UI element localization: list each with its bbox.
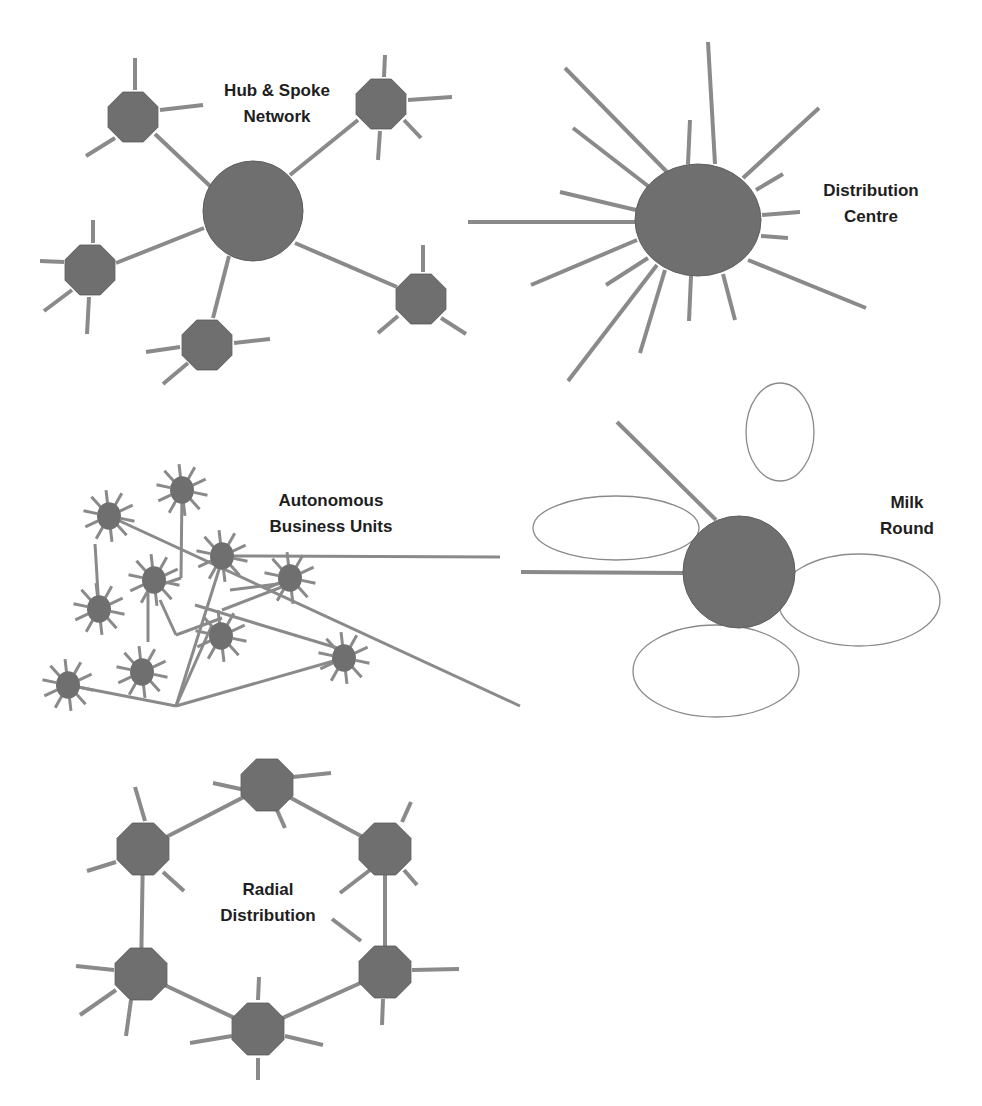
distribution-centre-label: Distribution Centre	[823, 178, 918, 230]
distribution-spoke-line	[762, 212, 800, 215]
logistics-network-diagram	[0, 0, 982, 1106]
unit-ray-line	[233, 545, 246, 551]
satellite-spoke-line	[404, 120, 421, 138]
unit-ray-line	[204, 537, 213, 547]
unit-ray-line	[106, 490, 108, 504]
business-unit-node	[209, 622, 233, 650]
business-unit-link-line	[222, 556, 500, 557]
satellite-depot-node	[65, 245, 115, 295]
satellite-depot-node	[356, 79, 406, 129]
distribution-spoke-line	[689, 276, 691, 321]
satellite-spoke-line	[160, 105, 203, 110]
unit-ray-line	[345, 670, 347, 684]
business-unit-node	[87, 595, 111, 623]
satellite-spoke-line	[378, 316, 398, 333]
unit-ray-line	[84, 511, 98, 514]
satellite-spoke-line	[378, 131, 380, 160]
unit-ray-line	[96, 526, 103, 538]
radial-spoke-line	[258, 977, 259, 1000]
radial-depot-node	[359, 823, 411, 875]
radial-depot-node	[115, 948, 167, 1000]
unit-ray-line	[164, 471, 173, 481]
business-unit-node	[278, 564, 302, 592]
business-unit-node	[332, 644, 356, 672]
radial-depot-node	[359, 946, 411, 998]
distribution-spoke-line	[761, 236, 788, 238]
unit-ray-line	[222, 648, 224, 662]
distribution-centre-diagram	[468, 42, 866, 381]
unit-ray-line	[69, 697, 71, 711]
hub-link-line	[155, 134, 210, 186]
unit-ray-line	[193, 479, 206, 485]
unit-ray-line	[79, 674, 92, 680]
unit-ray-line	[80, 687, 94, 690]
unit-ray-line	[139, 646, 141, 660]
distribution-centre-node	[635, 164, 761, 276]
satellite-spoke-line	[44, 290, 72, 311]
unit-ray-line	[117, 667, 131, 670]
autonomous-label-line2: Business Units	[270, 514, 393, 540]
unit-ray-line	[233, 638, 247, 641]
distribution-spoke-line	[573, 128, 648, 186]
milk-round-diagram	[521, 383, 940, 717]
unit-ray-line	[223, 568, 225, 582]
unit-ray-line	[91, 497, 100, 507]
unit-ray-line	[105, 586, 112, 598]
business-unit-node	[56, 671, 80, 699]
unit-ray-line	[81, 590, 90, 600]
unit-ray-line	[96, 583, 98, 597]
milk-round-spoke-line	[521, 572, 683, 573]
unit-ray-line	[150, 681, 159, 691]
business-unit-link-line	[160, 600, 176, 635]
business-unit-link-line	[109, 516, 520, 706]
hub-link-line	[295, 243, 397, 287]
milk-round-label-line2: Round	[880, 516, 934, 542]
delivery-loop-ellipse	[533, 496, 699, 560]
unit-ray-line	[74, 604, 88, 607]
unit-ray-line	[194, 492, 208, 495]
delivery-loop-ellipse	[633, 625, 799, 717]
unit-ray-line	[272, 559, 281, 569]
unit-ray-line	[190, 499, 199, 509]
unit-ray-line	[352, 667, 361, 677]
hub-spoke-label-line2: Network	[224, 104, 330, 130]
unit-ray-line	[43, 680, 57, 683]
unit-ray-line	[124, 653, 133, 663]
distribution-spoke-line	[688, 120, 690, 164]
satellite-spoke-line	[234, 339, 270, 343]
unit-ray-line	[136, 561, 145, 571]
radial-depot-node	[241, 759, 293, 811]
unit-ray-line	[302, 580, 316, 583]
unit-ray-line	[75, 614, 88, 620]
radial-distribution-label: Radial Distribution	[220, 877, 315, 929]
unit-ray-line	[74, 662, 81, 674]
delivery-loop-ellipse	[778, 554, 940, 646]
business-unit-node	[210, 542, 234, 570]
unit-ray-line	[179, 464, 181, 478]
unit-ray-line	[229, 645, 238, 655]
radial-label-line1: Radial	[220, 877, 315, 903]
radial-spoke-line	[412, 969, 459, 970]
unit-ray-line	[350, 635, 357, 647]
satellite-spoke-line	[86, 138, 115, 156]
unit-ray-line	[153, 661, 166, 667]
distribution-spoke-line	[743, 108, 819, 178]
milk-round-label-line1: Milk	[880, 490, 934, 516]
unit-ray-line	[197, 551, 211, 554]
business-unit-link-line	[176, 658, 344, 706]
unit-ray-line	[129, 575, 143, 578]
unit-ray-line	[157, 485, 171, 488]
unit-ray-line	[44, 690, 57, 696]
radial-spoke-line	[213, 783, 245, 790]
radial-spoke-line	[382, 999, 383, 1025]
unit-ray-line	[110, 598, 123, 604]
satellite-spoke-line	[163, 363, 188, 384]
business-unit-node	[97, 502, 121, 530]
unit-ray-line	[219, 530, 221, 544]
unit-ray-line	[143, 684, 145, 698]
distribution-spoke-line	[748, 260, 866, 308]
radial-spoke-line	[402, 802, 411, 822]
business-unit-node	[142, 566, 166, 594]
satellite-spoke-line	[384, 55, 385, 77]
distribution-centre-label-line2: Centre	[823, 204, 918, 230]
